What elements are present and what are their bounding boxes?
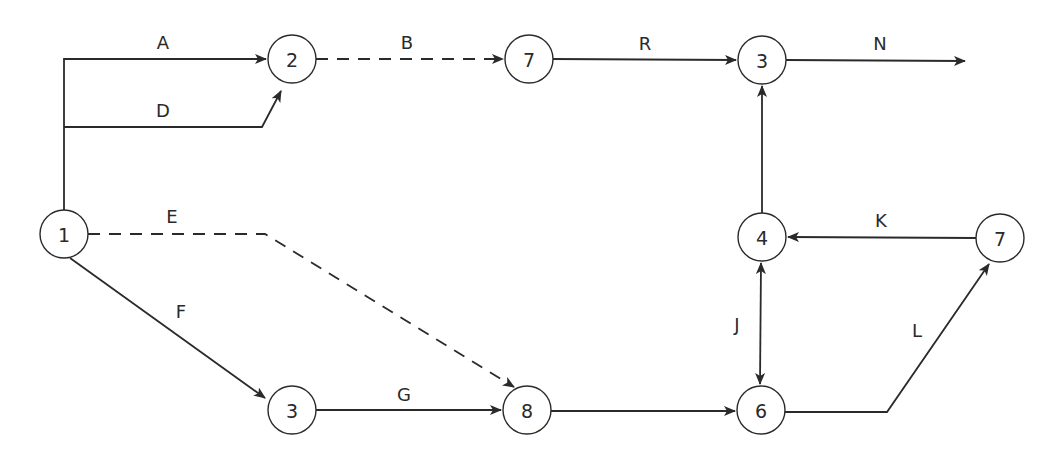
node-8: 8 <box>503 386 551 434</box>
node-4-label: 4 <box>756 227 768 249</box>
edge-e-line <box>88 234 514 387</box>
edge-n: N <box>786 33 965 62</box>
edge-d-line <box>64 91 281 127</box>
node-3-top-label: 3 <box>756 50 768 72</box>
node-6: 6 <box>737 386 785 434</box>
edge-b-label: B <box>401 32 413 53</box>
node-3-bottom-label: 3 <box>286 400 298 422</box>
edge-l: L <box>785 264 989 412</box>
edge-r: R <box>553 33 736 61</box>
edge-k-line <box>788 237 976 238</box>
edge-a: A <box>64 32 266 211</box>
node-6-label: 6 <box>755 400 767 422</box>
edge-n-label: N <box>873 33 886 54</box>
edge-f-line <box>70 258 265 398</box>
edge-j-line <box>760 263 761 384</box>
network-diagram: A D B R N E F G J <box>0 0 1063 457</box>
node-3-top: 3 <box>738 36 786 84</box>
node-4: 4 <box>738 213 786 261</box>
edge-g-label: G <box>397 384 411 405</box>
node-1: 1 <box>40 210 88 258</box>
edge-n-line <box>786 60 965 61</box>
edge-l-line <box>785 264 989 412</box>
edge-k-label: K <box>875 210 888 231</box>
node-7-top: 7 <box>505 35 553 83</box>
node-1-label: 1 <box>58 224 70 246</box>
edge-e-label: E <box>166 206 177 227</box>
edge-g: G <box>316 384 501 411</box>
edge-f-label: F <box>176 301 186 322</box>
edge-k: K <box>788 210 976 239</box>
edge-l-label: L <box>912 320 922 341</box>
edge-d: D <box>64 91 281 127</box>
edge-a-line <box>64 59 266 210</box>
node-3-bottom: 3 <box>268 386 316 434</box>
edge-r-label: R <box>639 33 652 54</box>
node-7-right: 7 <box>976 214 1024 262</box>
edge-f: F <box>70 258 265 398</box>
node-8-label: 8 <box>521 400 533 422</box>
edge-r-line <box>553 59 736 60</box>
edge-e: E <box>88 206 514 388</box>
edge-d-label: D <box>156 100 170 121</box>
edge-j: J <box>733 263 761 384</box>
node-7-top-label: 7 <box>523 49 535 71</box>
edge-j-label: J <box>733 314 739 335</box>
edge-b: B <box>316 32 503 60</box>
edge-a-label: A <box>157 32 170 53</box>
node-7-right-label: 7 <box>994 228 1006 250</box>
node-2-label: 2 <box>286 49 298 71</box>
node-2: 2 <box>268 35 316 83</box>
